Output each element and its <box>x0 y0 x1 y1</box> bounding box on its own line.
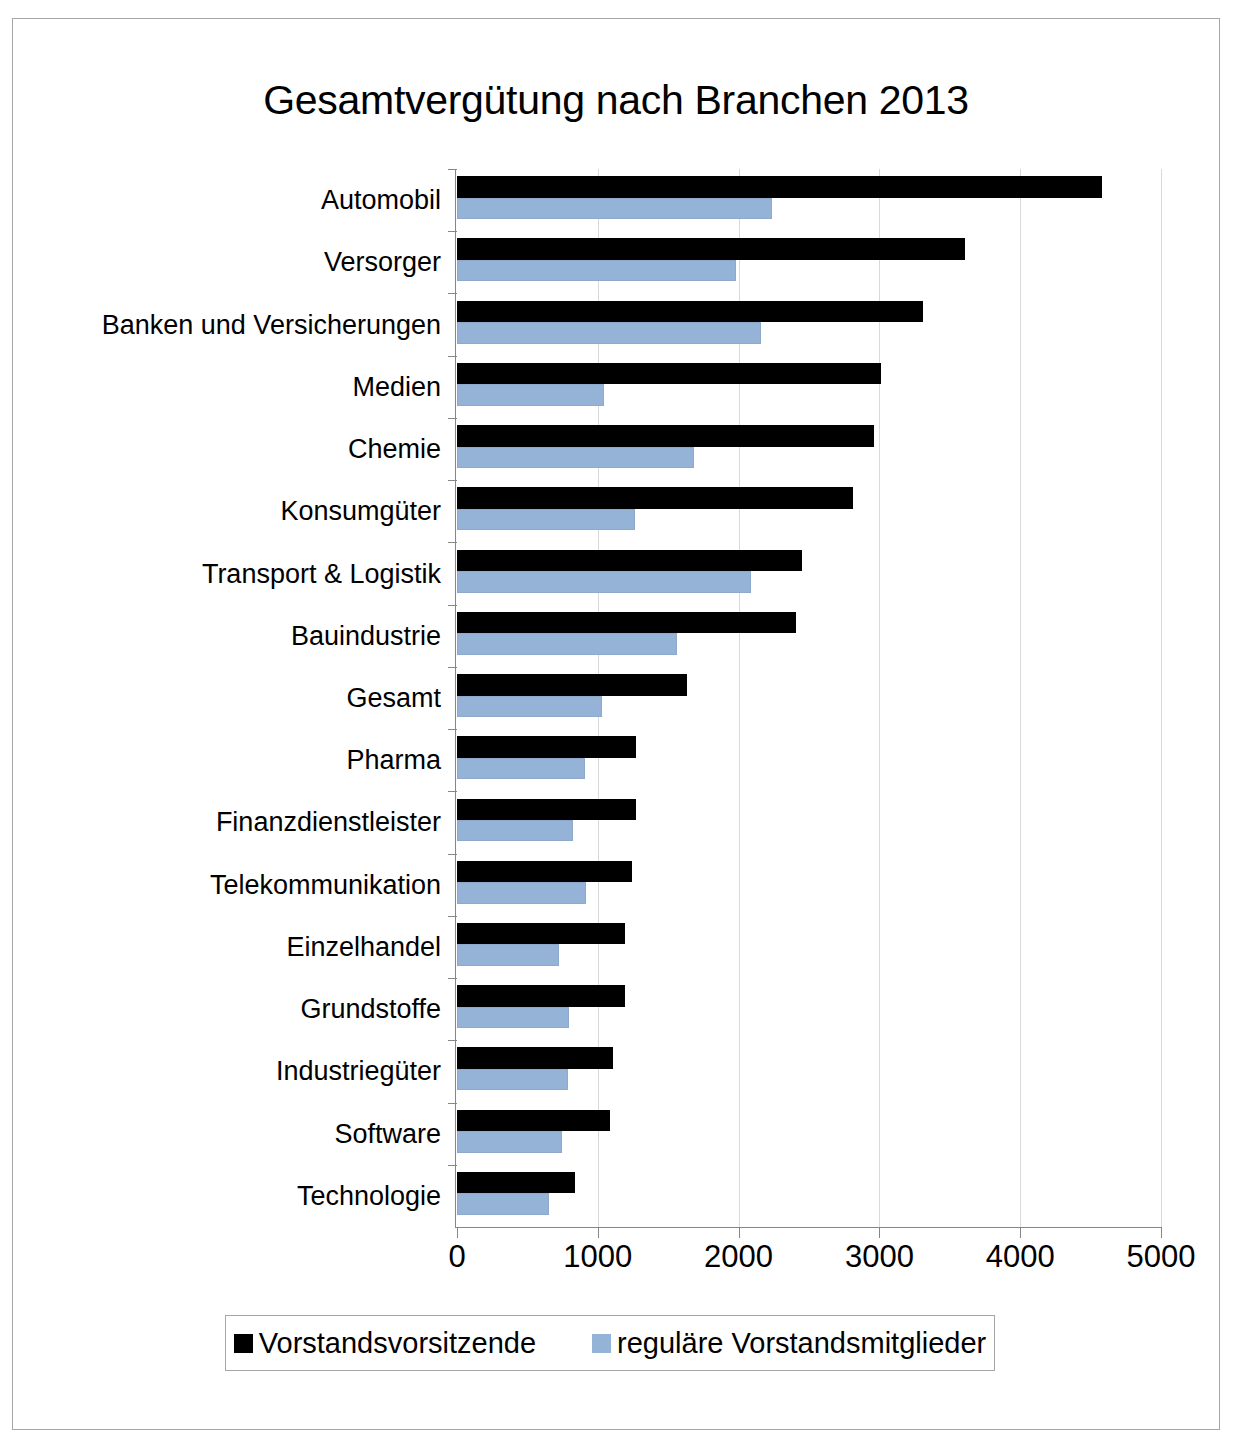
bar-vorstandsvorsitzende[interactable] <box>457 985 625 1006</box>
legend-label: reguläre Vorstandsmitglieder <box>617 1329 986 1358</box>
category-label: Finanzdienstleister <box>216 809 441 836</box>
y-axis-tick <box>448 1103 457 1104</box>
category-label: Gesamt <box>346 684 441 711</box>
y-axis-tick <box>448 978 457 979</box>
bar-vorstandsvorsitzende[interactable] <box>457 1172 575 1193</box>
x-axis-tick <box>1020 1227 1021 1238</box>
bar-regulaere-vorstandsmitglieder[interactable] <box>457 322 761 343</box>
chart-legend: Vorstandsvorsitzendereguläre Vorstandsmi… <box>225 1315 995 1371</box>
gridline <box>1161 169 1162 1227</box>
category-row: Chemie <box>457 418 1161 480</box>
bar-regulaere-vorstandsmitglieder[interactable] <box>457 758 585 779</box>
bar-vorstandsvorsitzende[interactable] <box>457 1047 613 1068</box>
bar-regulaere-vorstandsmitglieder[interactable] <box>457 384 604 405</box>
bar-vorstandsvorsitzende[interactable] <box>457 861 632 882</box>
category-row: Industriegüter <box>457 1040 1161 1102</box>
y-axis-tick <box>448 1165 457 1166</box>
legend-swatch-icon <box>592 1334 611 1353</box>
bar-vorstandsvorsitzende[interactable] <box>457 363 881 384</box>
y-axis-tick <box>448 605 457 606</box>
y-axis-tick <box>448 791 457 792</box>
x-axis-tick-label: 4000 <box>986 1239 1055 1275</box>
x-axis-tick-label: 2000 <box>704 1239 773 1275</box>
category-label: Versorger <box>324 249 441 276</box>
bar-regulaere-vorstandsmitglieder[interactable] <box>457 447 694 468</box>
category-row: Bauindustrie <box>457 605 1161 667</box>
bar-regulaere-vorstandsmitglieder[interactable] <box>457 1193 549 1214</box>
legend-item[interactable]: Vorstandsvorsitzende <box>234 1329 536 1358</box>
bar-vorstandsvorsitzende[interactable] <box>457 674 687 695</box>
x-axis-tick-label: 1000 <box>563 1239 632 1275</box>
bar-vorstandsvorsitzende[interactable] <box>457 176 1102 197</box>
category-row: Transport & Logistik <box>457 542 1161 604</box>
y-axis-tick <box>448 480 457 481</box>
category-label: Technologie <box>297 1182 441 1209</box>
category-row: Einzelhandel <box>457 916 1161 978</box>
category-label: Automobil <box>321 187 441 214</box>
x-axis-tick-label: 5000 <box>1127 1239 1196 1275</box>
bar-regulaere-vorstandsmitglieder[interactable] <box>457 944 559 965</box>
x-axis-ticks <box>457 1227 1161 1239</box>
category-row: Gesamt <box>457 667 1161 729</box>
bar-vorstandsvorsitzende[interactable] <box>457 425 874 446</box>
bar-vorstandsvorsitzende[interactable] <box>457 487 853 508</box>
category-label: Bauindustrie <box>291 622 441 649</box>
category-label: Konsumgüter <box>280 498 441 525</box>
chart-title: Gesamtvergütung nach Branchen 2013 <box>13 77 1219 124</box>
y-axis-tick <box>448 729 457 730</box>
bar-vorstandsvorsitzende[interactable] <box>457 238 965 259</box>
bar-regulaere-vorstandsmitglieder[interactable] <box>457 260 736 281</box>
category-label: Medien <box>352 373 441 400</box>
x-axis-tick <box>598 1227 599 1238</box>
x-axis-tick-labels: 010002000300040005000 <box>457 1239 1161 1279</box>
bar-regulaere-vorstandsmitglieder[interactable] <box>457 1069 568 1090</box>
category-row: Pharma <box>457 729 1161 791</box>
bar-vorstandsvorsitzende[interactable] <box>457 736 636 757</box>
bar-vorstandsvorsitzende[interactable] <box>457 1110 610 1131</box>
bar-regulaere-vorstandsmitglieder[interactable] <box>457 633 677 654</box>
category-row: Software <box>457 1103 1161 1165</box>
bar-regulaere-vorstandsmitglieder[interactable] <box>457 820 573 841</box>
bar-vorstandsvorsitzende[interactable] <box>457 550 802 571</box>
legend-label: Vorstandsvorsitzende <box>259 1329 536 1358</box>
x-axis-tick <box>1161 1227 1162 1238</box>
category-row: Medien <box>457 356 1161 418</box>
y-axis-tick <box>448 667 457 668</box>
y-axis-tick <box>448 916 457 917</box>
bar-regulaere-vorstandsmitglieder[interactable] <box>457 882 586 903</box>
bar-regulaere-vorstandsmitglieder[interactable] <box>457 571 751 592</box>
x-axis-tick <box>739 1227 740 1238</box>
category-label: Grundstoffe <box>300 996 441 1023</box>
bar-vorstandsvorsitzende[interactable] <box>457 923 625 944</box>
category-row: Finanzdienstleister <box>457 791 1161 853</box>
y-axis-tick <box>448 231 457 232</box>
chart-figure: Gesamtvergütung nach Branchen 2013 Autom… <box>12 18 1220 1430</box>
x-axis-tick-label: 3000 <box>845 1239 914 1275</box>
category-label: Software <box>334 1120 441 1147</box>
bar-vorstandsvorsitzende[interactable] <box>457 612 796 633</box>
category-label: Industriegüter <box>276 1058 441 1085</box>
plot-area: AutomobilVersorgerBanken und Versicherun… <box>457 169 1161 1227</box>
category-label: Einzelhandel <box>286 933 441 960</box>
x-axis-tick <box>879 1227 880 1238</box>
bar-regulaere-vorstandsmitglieder[interactable] <box>457 198 772 219</box>
legend-item[interactable]: reguläre Vorstandsmitglieder <box>592 1329 986 1358</box>
category-label: Chemie <box>348 436 441 463</box>
bar-regulaere-vorstandsmitglieder[interactable] <box>457 509 635 530</box>
category-label: Transport & Logistik <box>202 560 441 587</box>
y-axis-tick <box>448 356 457 357</box>
bar-vorstandsvorsitzende[interactable] <box>457 799 636 820</box>
bar-regulaere-vorstandsmitglieder[interactable] <box>457 1131 562 1152</box>
bar-regulaere-vorstandsmitglieder[interactable] <box>457 1007 569 1028</box>
category-label: Pharma <box>346 747 441 774</box>
y-axis-tick <box>448 854 457 855</box>
category-row: Technologie <box>457 1165 1161 1227</box>
category-label: Telekommunikation <box>210 871 441 898</box>
y-axis-tick <box>448 418 457 419</box>
category-row: Grundstoffe <box>457 978 1161 1040</box>
x-axis-tick-label: 0 <box>448 1239 465 1275</box>
bar-regulaere-vorstandsmitglieder[interactable] <box>457 696 602 717</box>
category-row: Automobil <box>457 169 1161 231</box>
bar-vorstandsvorsitzende[interactable] <box>457 301 923 322</box>
y-axis-tick <box>448 542 457 543</box>
